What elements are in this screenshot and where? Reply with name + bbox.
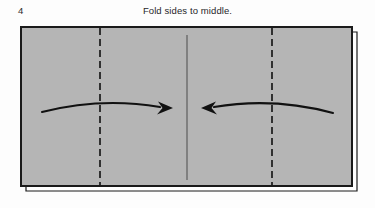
- origami-step-figure: 4 Fold sides to middle.: [0, 0, 375, 208]
- fold-diagram: [0, 0, 375, 208]
